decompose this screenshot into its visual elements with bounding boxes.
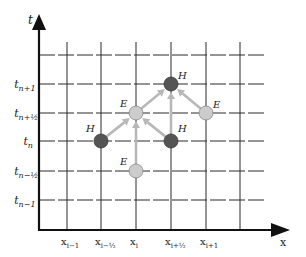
update-arrow (148, 122, 166, 136)
x-tick-subscript: i+½ (171, 242, 186, 250)
x-tick-label: xi+½ (165, 236, 186, 250)
field-nodes: HEEHHE (85, 70, 221, 178)
x-tick-subscript: i+1 (206, 242, 219, 250)
t-tick-labels: tn+1tn+½tntn−½tn−1 (14, 78, 38, 209)
e-field-node (129, 164, 143, 178)
x-tick-labels: xi−1xi−½xixi+½xi+1 (61, 236, 218, 250)
x-tick-label: xi+1 (200, 236, 218, 250)
t-tick-subscript: n+1 (19, 84, 36, 93)
t-axis-label: t (28, 13, 33, 27)
e-node-label: E (119, 98, 128, 109)
update-arrow (141, 94, 159, 109)
x-tick-subscript: i−1 (67, 242, 80, 250)
h-node-label: H (177, 70, 187, 81)
t-tick-subscript: n−1 (19, 200, 36, 209)
t-tick-label: tn−1 (14, 194, 35, 209)
t-tick-subscript: n−½ (19, 171, 39, 180)
h-field-node (94, 134, 108, 148)
h-field-node (164, 77, 178, 91)
x-tick-label: xi−½ (95, 236, 116, 250)
e-field-node (129, 106, 143, 120)
t-tick-subscript: n (28, 141, 33, 150)
h-node-label: H (177, 123, 187, 134)
h-node-label: H (85, 123, 95, 134)
update-arrowhead (167, 92, 175, 99)
x-axis-arrowhead (271, 223, 290, 237)
e-node-label: E (119, 156, 128, 167)
t-tick-label: tn+1 (14, 78, 35, 93)
e-field-node (199, 106, 213, 120)
e-node-label: E (212, 99, 221, 110)
yee-grid-diagram: t x tn+1tn+½tntn−½tn−1 xi−1xi−½xixi+½xi+… (0, 0, 306, 257)
h-field-node (164, 134, 178, 148)
t-tick-subscript: n+½ (19, 113, 39, 122)
grid-lines (39, 42, 265, 230)
t-tick-label: tn (23, 135, 33, 150)
x-axis-label: x (280, 236, 287, 249)
t-tick-label: tn+½ (14, 107, 38, 122)
update-arrow (106, 122, 124, 136)
x-tick-subscript: i (136, 242, 139, 250)
x-tick-label: xi (130, 236, 139, 250)
update-arrow (183, 94, 201, 109)
x-tick-label: xi−1 (61, 236, 79, 250)
x-tick-subscript: i−½ (101, 242, 116, 250)
update-arrowhead (132, 121, 140, 128)
t-axis-arrowhead (32, 14, 46, 30)
t-tick-label: tn−½ (14, 165, 38, 180)
